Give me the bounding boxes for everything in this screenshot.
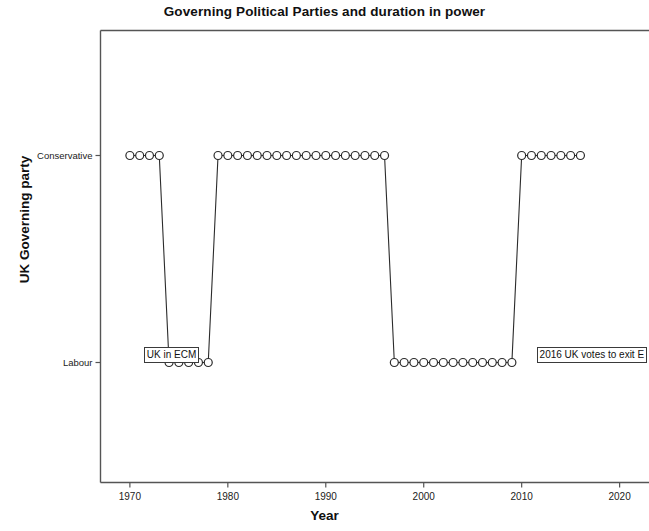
data-point <box>322 152 330 160</box>
y-tick-label: Conservative <box>37 150 92 161</box>
data-point <box>341 152 349 160</box>
data-point <box>332 152 340 160</box>
data-point <box>351 152 359 160</box>
data-point <box>469 359 477 367</box>
x-tick-label: 1990 <box>296 491 356 502</box>
data-point <box>420 359 428 367</box>
data-point <box>557 152 565 160</box>
chart-title: Governing Political Parties and duration… <box>0 4 649 19</box>
data-point <box>498 359 506 367</box>
data-point <box>567 152 575 160</box>
data-point <box>547 152 555 160</box>
data-point <box>204 359 212 367</box>
data-point <box>576 152 584 160</box>
data-point <box>459 359 467 367</box>
data-point <box>273 152 281 160</box>
series-markers <box>126 152 585 367</box>
data-point <box>537 152 545 160</box>
x-axis-label: Year <box>0 508 649 523</box>
data-point <box>243 152 251 160</box>
x-tick-label: 2020 <box>590 491 649 502</box>
data-point <box>478 359 486 367</box>
data-point <box>155 152 163 160</box>
data-point <box>136 152 144 160</box>
data-point <box>283 152 291 160</box>
data-point <box>224 152 232 160</box>
data-point <box>410 359 418 367</box>
chart-container: Governing Political Parties and duration… <box>0 0 649 531</box>
data-point <box>253 152 261 160</box>
series-line-uk-governing-party <box>130 156 581 363</box>
y-tick-label: Labour <box>63 357 93 368</box>
data-point <box>439 359 447 367</box>
data-point <box>263 152 271 160</box>
data-point <box>508 359 516 367</box>
x-tick-label: 1970 <box>100 491 160 502</box>
data-point <box>126 152 134 160</box>
axis-frame <box>101 31 649 483</box>
data-point <box>145 152 153 160</box>
data-point <box>371 152 379 160</box>
annotation-label: UK in ECM <box>144 347 199 363</box>
data-point <box>302 152 310 160</box>
data-point <box>234 152 242 160</box>
data-point <box>312 152 320 160</box>
data-point <box>449 359 457 367</box>
data-point <box>518 152 526 160</box>
data-point <box>292 152 300 160</box>
data-point <box>390 359 398 367</box>
data-point <box>361 152 369 160</box>
data-point <box>381 152 389 160</box>
data-point <box>488 359 496 367</box>
data-point <box>430 359 438 367</box>
x-tick-label: 2000 <box>394 491 454 502</box>
y-axis-label: UK Governing party <box>17 100 32 340</box>
x-tick-label: 1980 <box>198 491 258 502</box>
data-point <box>527 152 535 160</box>
plot-area <box>0 0 649 531</box>
tick-marks <box>96 156 620 488</box>
x-tick-label: 2010 <box>492 491 552 502</box>
annotation-label: 2016 UK votes to exit E <box>537 347 648 363</box>
data-point <box>214 152 222 160</box>
data-point <box>400 359 408 367</box>
